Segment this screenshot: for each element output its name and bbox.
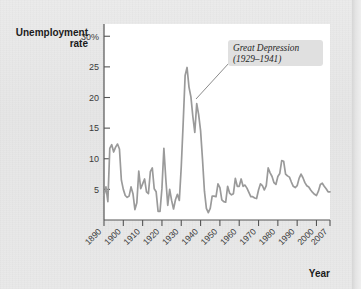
x-tick-label: 2007 <box>309 226 330 247</box>
y-tick-label: 10 <box>89 154 99 164</box>
y-tick-label: 15 <box>89 123 99 133</box>
x-tick-label: 1890 <box>83 226 104 247</box>
x-tick-label: 1920 <box>141 226 162 247</box>
x-tick-label: 1990 <box>276 226 297 247</box>
annotation-line2: (1929–1941) <box>233 54 281 65</box>
y-axis-title-line2: rate <box>70 38 89 49</box>
x-axis <box>104 220 330 226</box>
x-tick-labels: 1890190019101920193019401950196019701980… <box>83 226 330 247</box>
x-tick-label: 1960 <box>218 226 239 247</box>
annotation-callout: Great Depression (1929–1941) <box>228 40 323 66</box>
x-tick-label: 1940 <box>179 226 200 247</box>
y-tick-label: 25 <box>89 62 99 72</box>
y-tick-labels: 30%252015105 <box>81 32 99 195</box>
y-tick-label: 5 <box>94 185 99 195</box>
unemployment-rate-chart-figure: 30%252015105 189019001910192019301940195… <box>0 0 361 289</box>
y-axis-title-line1: Unemployment <box>16 27 89 38</box>
x-axis-title: Year <box>309 268 330 279</box>
x-tick-label: 1930 <box>160 226 181 247</box>
x-tick-label: 1900 <box>102 226 123 247</box>
annotation-line1: Great Depression <box>233 43 300 53</box>
x-tick-label: 1970 <box>237 226 258 247</box>
x-tick-label: 1950 <box>199 226 220 247</box>
x-tick-label: 1980 <box>257 226 278 247</box>
x-tick-label: 1910 <box>121 226 142 247</box>
y-tick-label: 20 <box>89 93 99 103</box>
